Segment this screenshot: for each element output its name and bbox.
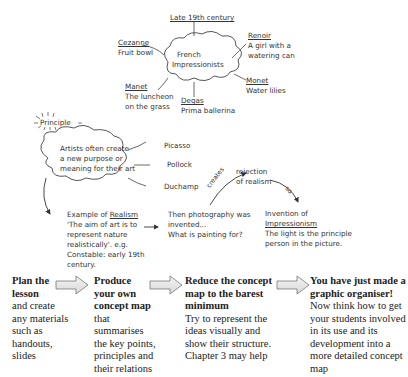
step-body-line: handouts, <box>12 338 68 351</box>
step-body-line: Now think how to get <box>310 300 406 313</box>
artist-work-line-2: on the grass <box>125 102 170 112</box>
realism-prefix: Example of <box>67 210 110 219</box>
step-title-line: You have just made a <box>310 275 406 288</box>
principle-line-2: a new purpose or <box>60 154 123 164</box>
step-title-line: graphic organiser! <box>310 288 406 301</box>
step-body-line: principles and <box>94 350 156 363</box>
realism-heading: Example of Realism <box>67 210 138 220</box>
era-label: Late 19th century <box>170 13 234 23</box>
photography-line: What is painting for? <box>168 230 243 240</box>
monet-connector <box>234 74 246 80</box>
artist-name: Cezanne <box>118 38 149 48</box>
step-title-line: map to the barest <box>185 288 272 301</box>
artist-work: Fruit bowl <box>118 48 153 58</box>
artist-name: Manet <box>125 82 147 92</box>
artist-work-line-1: A girl with a <box>248 41 291 51</box>
step-body-line: any materials <box>12 313 68 326</box>
step-body-line: their relations <box>94 363 156 376</box>
artist-name: Degas <box>181 96 204 106</box>
principle-line-3: meaning for their art <box>60 164 135 174</box>
rejection-line: rejection <box>236 167 267 177</box>
step-body-line: your students involved <box>310 313 406 326</box>
step-title-line: lesson <box>12 288 68 301</box>
picasso-connector <box>128 142 146 150</box>
step-title-line: your own <box>94 288 156 301</box>
step-body-line: Chapter 3 may help <box>185 350 272 363</box>
artist-work: Prima ballerina <box>181 106 235 116</box>
artist-work: Water lilies <box>246 86 286 96</box>
step-plan: Plan the lesson and create any materials… <box>12 275 68 363</box>
step-body-line: ideas visually and <box>185 325 272 338</box>
step-body-line: the key points, <box>94 338 156 351</box>
step-title-line: Plan the <box>12 275 68 288</box>
step-body-line: Try to represent the <box>185 313 272 326</box>
principle-example: Pollock <box>167 160 192 170</box>
center-concept-line-1: French <box>177 50 201 60</box>
manet-connector <box>158 78 168 90</box>
step-body-line: in its use and its <box>310 325 406 338</box>
principle-line-1: Artists often create <box>60 144 129 154</box>
principle-to-realism-arrow <box>44 178 50 214</box>
step-produce: Produce your own concept map that summar… <box>94 275 156 375</box>
step-title-line: concept map <box>94 300 156 313</box>
step-body-line: show their structure. <box>185 338 272 351</box>
duchamp-connector <box>128 178 146 186</box>
realism-line: realistically'. e.g. <box>67 240 128 250</box>
step-body-line: development into a <box>310 338 406 351</box>
photography-line: invented... <box>168 220 206 230</box>
principle-label: Principle <box>40 118 71 128</box>
step-body-line: such as <box>12 325 68 338</box>
impressionism-line: person in the picture. <box>265 239 342 249</box>
principle-example: Picasso <box>164 141 190 151</box>
realism-line: century. <box>67 260 96 270</box>
step-body-line: slides <box>12 350 68 363</box>
step-body-line: more detailed concept <box>310 350 406 363</box>
step-body-line: and create <box>12 300 68 313</box>
step-body-line: that <box>94 313 156 326</box>
impressionists-cloud <box>164 31 241 80</box>
photography-line: Then photography was <box>168 210 251 220</box>
step-title-line: Produce <box>94 275 156 288</box>
rejection-line: of realism <box>236 177 272 187</box>
realism-line: represent nature <box>67 230 127 240</box>
impressionism-line: The light is the principle <box>265 229 352 239</box>
step-body-line: summarises <box>94 325 156 338</box>
artist-work-line-1: The luncheon <box>125 92 174 102</box>
realism-term: Realism <box>110 210 138 219</box>
impressionism-term: Impressionism <box>265 219 317 229</box>
artist-name: Monet <box>246 76 268 86</box>
step-reduce: Reduce the concept map to the barest min… <box>185 275 272 363</box>
principle-example: Duchamp <box>164 182 199 192</box>
artist-work-line-2: watering can <box>248 51 295 61</box>
center-concept-line-2: Impressionists <box>172 60 224 70</box>
realism-line: 'The aim of art is to <box>67 220 137 230</box>
realism-line: Constable: early 19th <box>67 250 144 260</box>
step-body-line: map <box>310 363 406 376</box>
step-arrow-icon <box>277 276 309 294</box>
artist-name: Renoir <box>248 31 271 41</box>
step-title-line: Reduce the concept <box>185 275 272 288</box>
step-graphic-organiser: You have just made a graphic organiser! … <box>310 275 406 375</box>
step-title-line: minimum <box>185 300 272 313</box>
impressionism-prefix: Invention of <box>265 209 308 219</box>
